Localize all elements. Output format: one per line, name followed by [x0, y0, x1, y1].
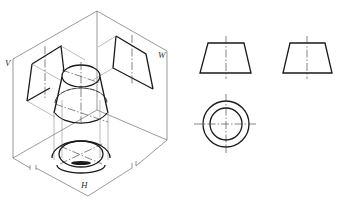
front-view	[200, 36, 251, 79]
projection-figure: V W H	[0, 0, 340, 201]
orthographic-views	[0, 0, 340, 201]
top-view	[194, 94, 258, 153]
side-view	[283, 36, 332, 79]
